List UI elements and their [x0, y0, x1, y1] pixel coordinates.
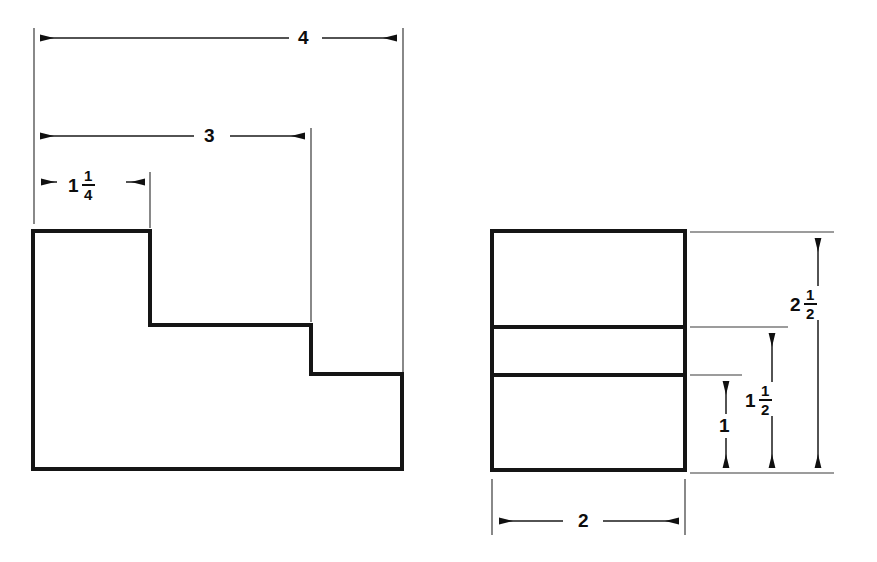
fraction-numerator: 1 — [804, 287, 816, 303]
fraction-denominator: 4 — [82, 186, 94, 202]
fraction-one-half-tall: 1 2 — [804, 287, 817, 322]
fraction-numerator: 1 — [82, 168, 94, 184]
dimension-label-2-bottom: 2 — [578, 511, 592, 530]
dim-value-1: 1 — [719, 416, 730, 435]
dimension-label-3: 3 — [204, 126, 218, 145]
fraction-numerator: 1 — [759, 383, 771, 399]
dimension-label-4: 4 — [298, 28, 312, 47]
dimension-label-1-1-2: 1 1 2 — [745, 383, 772, 418]
fraction-denominator: 2 — [804, 305, 816, 321]
dim-value-3: 3 — [204, 126, 215, 145]
fraction-denominator: 2 — [759, 401, 771, 417]
dim-value-1-1-2-whole: 1 — [745, 391, 756, 410]
fraction-one-quarter: 1 4 — [82, 168, 95, 203]
dimension-label-1-1-4: 1 1 4 — [68, 168, 95, 203]
dimension-label-2-1-2: 2 1 2 — [790, 287, 817, 322]
technical-drawing-canvas: 4 3 1 1 4 2 1 2 1 1 2 1 2 — [0, 0, 877, 562]
side-view-extension-lines — [492, 232, 834, 535]
dim-value-1-1-4-whole: 1 — [68, 176, 79, 195]
dim-value-2: 2 — [578, 511, 589, 530]
front-view-outline — [33, 231, 402, 469]
dimension-label-1: 1 — [719, 416, 733, 435]
fraction-one-half-mid: 1 2 — [759, 383, 772, 418]
dim-value-2-1-2-whole: 2 — [790, 295, 801, 314]
drawing-svg — [0, 0, 877, 562]
side-view-outline — [492, 231, 685, 470]
dim-value-4: 4 — [298, 28, 309, 47]
